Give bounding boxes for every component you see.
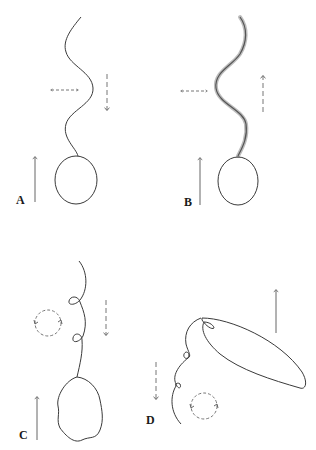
panel-label-c: C: [19, 428, 28, 442]
flagellum-looped: [69, 261, 86, 377]
panel-d: D: [146, 290, 306, 427]
flagellum-smooth: [65, 17, 93, 156]
flagellum-hairy: [216, 17, 247, 156]
cell-body: [55, 156, 97, 204]
flagella-diagram: A B C D: [0, 0, 316, 450]
panel-label-b: B: [184, 195, 192, 209]
rotation-arrowhead-right-icon: [58, 320, 62, 324]
rotation-arrowhead-right-icon: [214, 404, 218, 408]
rotation-circle-icon: [35, 310, 61, 336]
cell-body: [218, 157, 258, 205]
cell-body-irregular: [58, 377, 103, 441]
panel-label-a: A: [16, 193, 25, 207]
rotation-arrowhead-left-icon: [34, 320, 38, 324]
panel-c: C: [19, 261, 106, 442]
rotation-arrowhead-left-icon: [190, 404, 194, 408]
panel-b: B: [181, 17, 263, 209]
cell-body-leaf: [202, 318, 306, 388]
rotation-circle-icon: [191, 393, 217, 419]
flagellum-hairs: [216, 17, 247, 156]
panel-a: A: [16, 17, 107, 207]
flagellum-looped: [172, 318, 201, 424]
panel-label-d: D: [146, 413, 155, 427]
